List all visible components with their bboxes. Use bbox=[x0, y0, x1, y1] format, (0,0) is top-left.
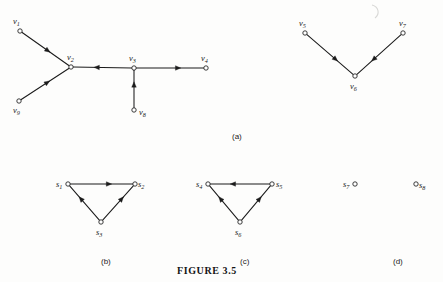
figure-caption: FIGURE 3.5 bbox=[177, 266, 237, 276]
vertex-v7 bbox=[401, 31, 405, 35]
panel-label-d: (d) bbox=[393, 258, 403, 266]
vertex-v6 bbox=[353, 74, 357, 78]
arrowhead-s1-s2 bbox=[106, 182, 111, 187]
arrowhead-v3-v2 bbox=[94, 65, 99, 70]
edge-v5-v6 bbox=[307, 34, 354, 74]
vertex-label-v1: v1 bbox=[13, 17, 20, 26]
vertex-label-s2: s2 bbox=[138, 180, 144, 189]
vertex-v5 bbox=[303, 31, 307, 35]
vertex-s6 bbox=[238, 220, 242, 224]
edge-v9-v2 bbox=[21, 68, 69, 100]
vertex-s3 bbox=[99, 220, 103, 224]
vertex-label-v2: v2 bbox=[67, 53, 74, 62]
vertex-label-s8: s8 bbox=[419, 181, 425, 190]
vertex-label-s5: s5 bbox=[276, 180, 282, 189]
vertex-label-v8: v8 bbox=[139, 108, 146, 117]
vertex-v3 bbox=[132, 66, 136, 70]
vertex-label-v9: v9 bbox=[13, 106, 20, 115]
arrowhead-v3-v4 bbox=[175, 66, 180, 71]
scan-artifact-mark bbox=[372, 5, 378, 18]
vertex-label-s6: s6 bbox=[235, 228, 241, 237]
edge-v1-v2 bbox=[22, 32, 69, 65]
edge-s3-s1 bbox=[69, 186, 99, 221]
edge-s6-s4 bbox=[209, 186, 238, 221]
vertex-v9 bbox=[17, 99, 21, 103]
vertex-label-v5: v5 bbox=[299, 19, 306, 28]
vertex-s5 bbox=[270, 182, 274, 186]
vertex-v2 bbox=[69, 65, 73, 69]
figure-page: v1v2v3v4v8v9v5v6v7s1s2s3s4s5s6s7s8 (a) (… bbox=[0, 0, 443, 282]
vertex-label-v6: v6 bbox=[350, 82, 357, 91]
panel-label-b: (b) bbox=[101, 258, 111, 266]
vertex-v8 bbox=[132, 108, 136, 112]
vertex-label-s7: s7 bbox=[343, 180, 349, 189]
vertex-s1 bbox=[66, 182, 70, 186]
vertex-label-s4: s4 bbox=[196, 180, 202, 189]
edge-s6-s5 bbox=[241, 186, 270, 221]
arrowhead-v1-v2 bbox=[44, 47, 50, 52]
arrowhead-v8-v3 bbox=[132, 82, 137, 87]
edges-layer bbox=[21, 32, 402, 220]
vertex-label-v7: v7 bbox=[399, 19, 406, 28]
vertex-label-s3: s3 bbox=[96, 228, 102, 237]
vertex-label-v4: v4 bbox=[201, 54, 208, 63]
vertex-s7 bbox=[353, 182, 357, 186]
panel-label-a: (a) bbox=[232, 133, 242, 141]
vertex-v1 bbox=[18, 29, 22, 33]
edge-v7-v6 bbox=[357, 34, 402, 74]
edge-s3-s2 bbox=[102, 186, 133, 221]
vertex-s2 bbox=[133, 182, 137, 186]
vertex-s4 bbox=[206, 182, 210, 186]
vertex-s8 bbox=[414, 182, 418, 186]
panel-label-c: (c) bbox=[240, 258, 249, 266]
vertex-v4 bbox=[204, 66, 208, 70]
vertex-label-s1: s1 bbox=[56, 180, 62, 189]
edge-v3-v2 bbox=[73, 67, 132, 68]
arrowhead-v9-v2 bbox=[44, 81, 50, 86]
vertex-label-v3: v3 bbox=[129, 54, 136, 63]
arrowhead-s5-s4 bbox=[230, 182, 235, 187]
figure-graphics bbox=[0, 0, 443, 282]
